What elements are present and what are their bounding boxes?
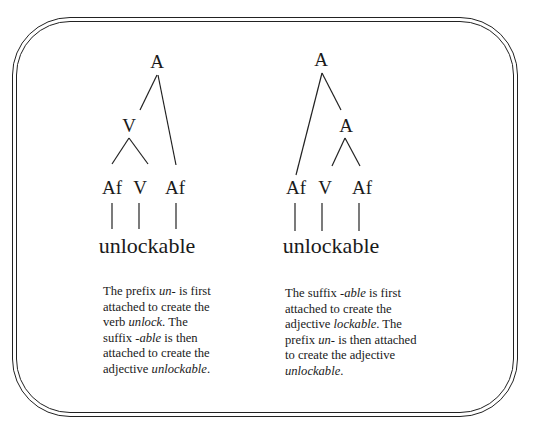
right-node-v: V <box>318 178 332 197</box>
left-node-af1: Af <box>102 178 122 197</box>
right-word: unlockable <box>283 235 380 257</box>
left-node-af2: Af <box>165 178 185 197</box>
right-node-af2: Af <box>352 178 372 197</box>
branch-a-to-v-right <box>332 138 345 166</box>
branch-a-to-af2-left <box>158 75 176 165</box>
tree-branch-lines <box>0 0 535 429</box>
branch-v-to-v-left <box>129 138 148 164</box>
branch-a-to-af2-right <box>345 138 360 166</box>
branch-a-to-v-left <box>140 75 157 110</box>
left-node-v-mid: V <box>122 116 136 135</box>
branch-a-to-af1-right <box>296 73 322 175</box>
left-node-v: V <box>133 178 147 197</box>
right-node-af1: Af <box>286 178 306 197</box>
right-node-a-root: A <box>314 50 328 69</box>
left-word: unlockable <box>99 235 196 257</box>
right-node-a-mid: A <box>339 116 353 135</box>
left-caption: The prefix un- is first attached to crea… <box>103 284 211 377</box>
branch-a-to-a-right <box>322 73 341 110</box>
right-caption: The suffix -able is first attached to cr… <box>285 286 417 379</box>
left-node-a-root: A <box>150 52 164 71</box>
branch-v-to-af1-left <box>112 138 129 164</box>
